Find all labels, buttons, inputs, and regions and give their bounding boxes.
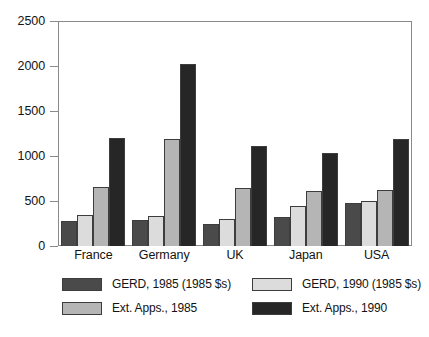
y-axis-tick-label: 1500 <box>18 104 45 118</box>
y-axis-tick-label: 2000 <box>18 59 45 73</box>
x-axis: FranceGermanyUKJapanUSA <box>58 248 412 266</box>
legend-entry: Ext. Apps., 1990 <box>252 300 387 316</box>
y-axis-tick: 1500 <box>18 104 58 118</box>
y-axis-tick: 500 <box>24 194 58 208</box>
y-axis-tick-mark <box>50 246 58 247</box>
x-axis-category-label: Germany <box>129 248 200 262</box>
x-axis-category-label: Japan <box>270 248 341 262</box>
bar <box>345 203 361 246</box>
y-axis-tick-label: 500 <box>24 194 45 208</box>
legend-entry: GERD, 1990 (1985 $s) <box>252 276 421 292</box>
y-axis-tick-mark <box>50 21 58 22</box>
legend-color-swatch <box>252 278 292 291</box>
legend-color-swatch <box>62 302 102 315</box>
bar-group <box>203 21 267 246</box>
bar <box>377 190 393 246</box>
bar <box>235 188 251 246</box>
legend-label: GERD, 1985 (1985 $s) <box>112 277 231 291</box>
y-axis: 05001000150020002500 <box>0 0 58 246</box>
x-axis-category-label: France <box>58 248 129 262</box>
legend-label: Ext. Apps., 1985 <box>112 301 197 315</box>
x-axis-category-label: USA <box>341 248 412 262</box>
bar <box>219 219 235 246</box>
bar-group <box>61 21 125 246</box>
legend-label: Ext. Apps., 1990 <box>302 301 387 315</box>
y-axis-tick-mark <box>50 66 58 67</box>
bar <box>290 206 306 246</box>
bar <box>274 217 290 246</box>
y-axis-tick-mark <box>50 156 58 157</box>
y-axis-tick-label: 1000 <box>18 149 45 163</box>
bar-group <box>132 21 196 246</box>
bar <box>93 187 109 246</box>
chart-legend: GERD, 1985 (1985 $s)GERD, 1990 (1985 $s)… <box>62 276 402 324</box>
x-axis-category-label: UK <box>200 248 271 262</box>
bar <box>322 153 338 246</box>
bar <box>61 221 77 246</box>
bar <box>164 139 180 246</box>
y-axis-tick-label: 2500 <box>18 14 45 28</box>
bar <box>203 224 219 247</box>
legend-label: GERD, 1990 (1985 $s) <box>302 277 421 291</box>
bar <box>148 216 164 246</box>
bar <box>393 139 409 246</box>
y-axis-tick-label: 0 <box>38 239 45 253</box>
bar <box>361 201 377 246</box>
bar <box>251 146 267 246</box>
bar-chart-figure: 05001000150020002500 FranceGermanyUKJapa… <box>0 0 429 337</box>
y-axis-tick: 2000 <box>18 59 58 73</box>
y-axis-tick: 0 <box>38 239 58 253</box>
bar <box>132 220 148 246</box>
bar-group <box>274 21 338 246</box>
bar-group <box>345 21 409 246</box>
legend-entry: GERD, 1985 (1985 $s) <box>62 276 231 292</box>
bar <box>306 191 322 246</box>
bar <box>77 215 93 246</box>
y-axis-tick-mark <box>50 111 58 112</box>
y-axis-tick-mark <box>50 201 58 202</box>
y-axis-tick: 1000 <box>18 149 58 163</box>
bars-layer <box>58 21 412 246</box>
bar <box>180 64 196 246</box>
y-axis-tick: 2500 <box>18 14 58 28</box>
bar <box>109 138 125 246</box>
legend-color-swatch <box>252 302 292 315</box>
legend-entry: Ext. Apps., 1985 <box>62 300 197 316</box>
legend-color-swatch <box>62 278 102 291</box>
